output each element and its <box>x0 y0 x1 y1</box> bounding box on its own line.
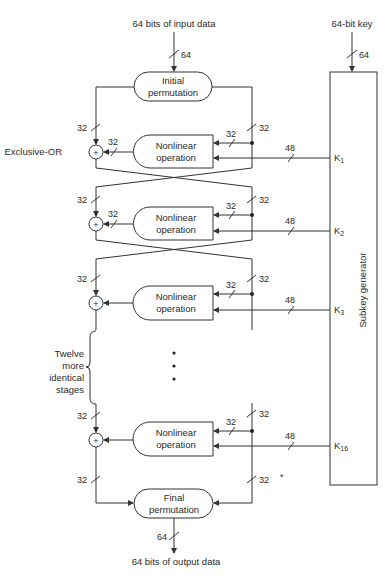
width-label: 32 <box>226 417 236 427</box>
left-half-line <box>96 87 134 144</box>
width-label: 32 <box>226 129 236 139</box>
width-label: 32 <box>77 123 87 133</box>
final-permutation-label-1: Final <box>164 492 185 503</box>
ellipsis-dot <box>172 377 175 380</box>
width-label: 32 <box>259 475 269 485</box>
width-label: 32 <box>226 280 236 290</box>
key-width: 64 <box>359 50 369 60</box>
ellipsis-dot <box>172 364 175 367</box>
width-label: 32 <box>77 411 87 421</box>
output-width: 64 <box>157 532 167 542</box>
width-label: 32 <box>77 475 87 485</box>
ellipsis-note-line-4: stages <box>56 384 84 395</box>
ellipsis-dot <box>172 351 175 354</box>
brace <box>86 331 96 404</box>
ellipsis-note-line-2: more <box>62 360 84 371</box>
final-permutation-label-2: permutation <box>149 504 199 515</box>
nonlinear-label-1: Nonlinear <box>156 291 197 302</box>
nonlinear-label-2: operation <box>156 439 196 450</box>
subkey-width: 48 <box>285 431 295 441</box>
subkey-generator-box <box>330 72 377 485</box>
right-half-line <box>212 87 252 168</box>
input-width: 64 <box>181 50 191 60</box>
initial-permutation-label-1: Initial <box>162 75 184 86</box>
width-label: 32 <box>259 274 269 284</box>
stage-2: Nonlinear operation + 32 32 48 K2 <box>89 201 344 240</box>
xor-symbol: + <box>93 299 98 309</box>
subkey-width: 48 <box>285 143 295 153</box>
xor-symbol: + <box>93 148 98 158</box>
width-label: 32 <box>226 201 236 211</box>
nonlinear-label-2: operation <box>156 224 196 235</box>
stray-mark: * <box>280 472 284 482</box>
subkey-width: 48 <box>285 216 295 226</box>
width-label: 32 <box>259 195 269 205</box>
stage-16: Nonlinear operation + 32 48 K16 <box>89 417 348 456</box>
stage-3: Nonlinear operation + 32 48 K3 <box>89 280 344 330</box>
initial-permutation-label-2: permutation <box>148 87 198 98</box>
input-label: 64 bits of input data <box>133 18 217 29</box>
key-label: 64-bit key <box>331 18 372 29</box>
xor-symbol: + <box>93 436 98 446</box>
nonlinear-label-1: Nonlinear <box>156 140 197 151</box>
output-label: 64 bits of output data <box>132 556 221 567</box>
nonlinear-label-1: Nonlinear <box>156 427 197 438</box>
nonlinear-label-2: operation <box>156 152 196 163</box>
width-label: 32 <box>259 409 269 419</box>
nonlinear-label-2: operation <box>156 303 196 314</box>
width-label: 32 <box>259 123 269 133</box>
width-label: 32 <box>108 137 118 147</box>
width-label: 32 <box>77 274 87 284</box>
ellipsis-note-line-1: Twelve <box>54 348 84 359</box>
width-label: 32 <box>77 195 87 205</box>
left-to-final <box>96 447 133 503</box>
ellipsis-note-line-3: identical <box>49 372 84 383</box>
nonlinear-label-1: Nonlinear <box>156 212 197 223</box>
subkey-width: 48 <box>285 295 295 305</box>
xor-symbol: + <box>93 220 98 230</box>
xor-label: Exclusive-OR <box>4 146 62 157</box>
width-label: 32 <box>108 209 118 219</box>
stage-1: Nonlinear operation + 32 32 48 K1 Exclus… <box>4 129 344 168</box>
subkey-generator-label: Subkey generator <box>357 253 368 328</box>
des-diagram: 64 bits of input data 64 64-bit key 64 S… <box>0 0 389 580</box>
